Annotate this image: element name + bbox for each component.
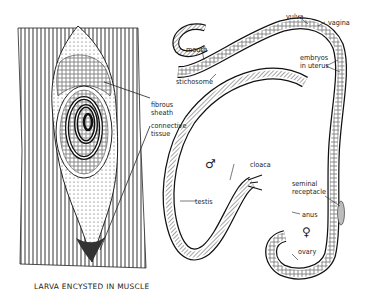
seminal-receptacle (338, 201, 345, 225)
label-seminal-2: receptacle (292, 187, 326, 196)
label-stichosome: stichosome (176, 77, 213, 86)
label-embryos-2: in uterus (300, 61, 329, 70)
male-worm (169, 74, 305, 255)
female-symbol: ♀ (302, 225, 311, 239)
label-anus: anus (302, 210, 318, 219)
caption: LARVA ENCYSTED IN MUSCLE (34, 282, 149, 291)
label-mouth: mouth (186, 45, 207, 54)
trichinella-diagram: fibrous sheath connective tissue mouth s… (0, 0, 371, 302)
label-cloaca: cloaca (250, 160, 271, 169)
muscle-panel (18, 26, 150, 268)
label-connective-tissue-2: tissue (151, 129, 170, 138)
label-vagina: vagina (328, 18, 350, 27)
label-testis: testis (195, 197, 213, 206)
male-symbol: ♂ (205, 157, 216, 171)
label-vulva: vulva (286, 12, 304, 21)
label-fibrous-sheath-2: sheath (151, 108, 173, 117)
label-ovary: ovary (298, 247, 316, 256)
